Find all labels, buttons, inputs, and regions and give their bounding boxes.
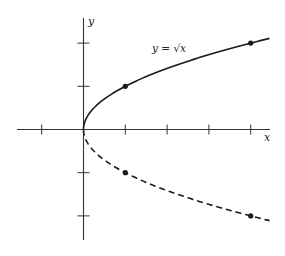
data-point [123, 170, 128, 175]
data-point [248, 41, 253, 46]
lower-curve-neg-sqrt-x [84, 130, 270, 221]
equation-label: y = √x [151, 42, 186, 54]
data-point [248, 213, 253, 218]
data-point [123, 84, 128, 89]
sqrt-graph: y x y = √x [0, 0, 285, 256]
y-axis-label: y [87, 15, 95, 28]
x-axis-label: x [264, 131, 271, 144]
axes [17, 18, 270, 240]
